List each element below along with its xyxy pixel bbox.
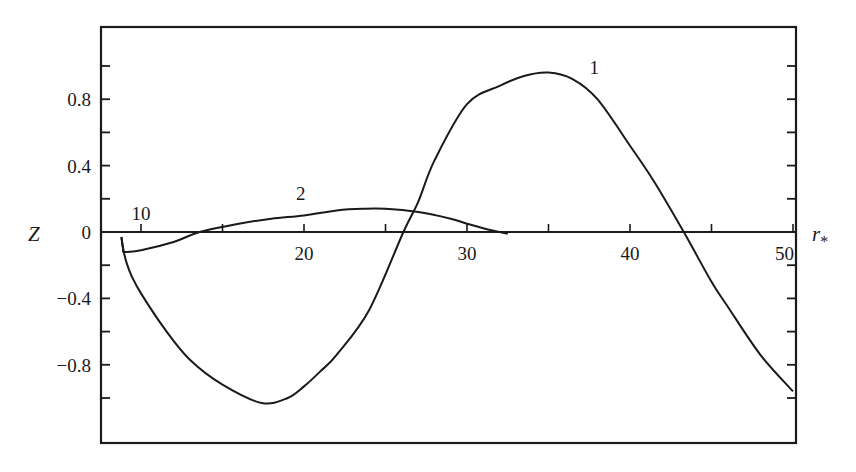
x-axis-label: r* <box>812 222 828 250</box>
y-tick-label: 0.4 <box>67 156 91 177</box>
plot-frame <box>101 27 796 443</box>
data-curves <box>121 73 793 404</box>
y-tick-label: −0.4 <box>57 288 92 309</box>
x-tick-label: 20 <box>295 243 314 264</box>
y-tick-label: 0 <box>82 222 92 243</box>
line-chart: 1020304050 0.80.40−0.4−0.8 12 r* Z <box>0 0 856 472</box>
curve-2 <box>121 208 507 252</box>
curve-labels: 12 <box>296 57 599 204</box>
x-tick-label: 50 <box>775 243 794 264</box>
y-tick-label: 0.8 <box>67 89 91 110</box>
curve-1 <box>121 73 793 404</box>
y-tick-label: −0.8 <box>57 355 91 376</box>
y-axis-tick-labels: 0.80.40−0.4−0.8 <box>57 89 92 376</box>
curve-label-1: 1 <box>589 57 599 78</box>
curve-label-2: 2 <box>296 183 306 204</box>
x-tick-label: 30 <box>458 243 477 264</box>
y-axis-label: Z <box>28 222 40 246</box>
plot-border <box>101 27 796 443</box>
x-tick-label: 40 <box>621 243 640 264</box>
x-tick-label: 10 <box>132 203 151 224</box>
x-axis-ticks <box>141 224 793 232</box>
x-axis-tick-labels: 1020304050 <box>132 203 795 264</box>
